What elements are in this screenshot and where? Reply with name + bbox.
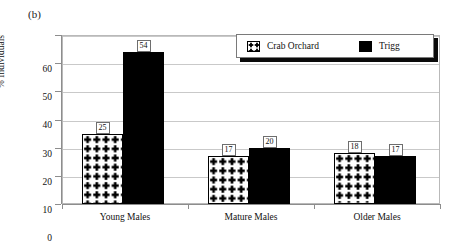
y-axis-tick: [55, 148, 61, 149]
y-axis-tick: [55, 176, 61, 177]
y-axis-tick: [55, 35, 61, 36]
y-axis: 6050403020100: [55, 35, 62, 204]
bar-trigg-mature-males: [249, 148, 290, 204]
gridline: [63, 64, 439, 65]
legend-label: Trigg: [379, 41, 400, 51]
legend-entry-crab-orchard: Crab Orchard: [247, 35, 319, 57]
y-axis-tick: [55, 120, 61, 121]
chart-legend: Crab Orchard Trigg: [236, 34, 434, 58]
bar-value-label: 18: [348, 141, 362, 153]
y-axis-tick-label: 40: [26, 121, 52, 131]
gridline: [63, 121, 439, 122]
y-axis-tick-label: 10: [26, 206, 52, 216]
y-axis-title: % Individuals: [0, 35, 6, 88]
panel-label: (b): [28, 8, 41, 20]
x-axis-tick: [314, 204, 315, 209]
solid-black-swatch-icon: [359, 41, 372, 52]
x-axis-tick: [440, 204, 441, 209]
chart-figure: (b) 6050403020100 % Individuals Crab Orc…: [0, 0, 459, 246]
gridline: [63, 92, 439, 93]
y-axis-tick: [55, 63, 61, 64]
y-axis-tick-label: 60: [26, 65, 52, 75]
y-axis-tick: [55, 204, 61, 205]
y-axis-tick-label: 20: [26, 178, 52, 188]
y-axis-tick-label: 30: [26, 150, 52, 160]
legend-label: Crab Orchard: [267, 41, 319, 51]
y-axis-tick: [55, 91, 61, 92]
legend-entry-trigg: Trigg: [359, 35, 400, 57]
bar-value-label: 17: [222, 144, 236, 156]
y-axis-tick-label: 0: [26, 234, 52, 244]
bar-value-label: 17: [389, 144, 403, 156]
bar-trigg-older-males: [375, 156, 416, 204]
bar-crab-orchard-mature-males: [208, 156, 249, 204]
x-axis-category-label: Mature Males: [188, 212, 314, 222]
y-axis-tick-label: 50: [26, 93, 52, 103]
bar-crab-orchard-older-males: [334, 153, 375, 204]
x-axis-tick: [188, 204, 189, 209]
x-axis: [62, 204, 440, 205]
plus-hatch-swatch-icon: [247, 41, 260, 52]
x-axis-category-label: Young Males: [62, 212, 188, 222]
x-axis-category-label: Older Males: [314, 212, 440, 222]
bar-value-label: 25: [96, 122, 110, 134]
bar-trigg-young-males: [123, 52, 164, 204]
bar-value-label: 20: [263, 136, 277, 148]
bar-value-label: 54: [137, 40, 151, 52]
x-axis-tick: [62, 204, 63, 209]
bar-crab-orchard-young-males: [82, 134, 123, 204]
